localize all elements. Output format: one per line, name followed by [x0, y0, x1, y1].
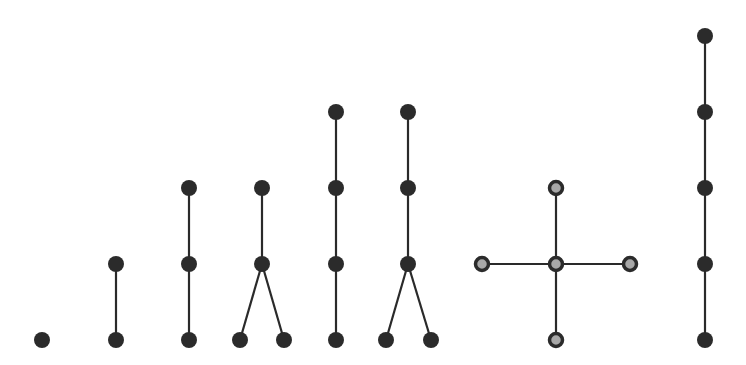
tree-node	[400, 256, 416, 272]
tree-node	[697, 28, 713, 44]
tree-t2	[108, 256, 124, 348]
tree-edge	[240, 264, 262, 340]
tree-node	[254, 256, 270, 272]
tree-node	[108, 256, 124, 272]
tree-node	[181, 332, 197, 348]
tree-node	[328, 332, 344, 348]
tree-node	[181, 256, 197, 272]
tree-node	[423, 332, 439, 348]
tree-t4	[232, 180, 292, 348]
tree-node	[328, 104, 344, 120]
tree-t3	[181, 180, 197, 348]
tree-node	[624, 258, 637, 271]
tree-edge	[408, 264, 431, 340]
tree-t6	[378, 104, 439, 348]
tree-node	[108, 332, 124, 348]
tree-node	[697, 332, 713, 348]
tree-node	[697, 256, 713, 272]
tree-t5	[328, 104, 344, 348]
tree-node	[34, 332, 50, 348]
tree-node	[328, 180, 344, 196]
tree-node	[697, 180, 713, 196]
tree-diagram	[0, 0, 746, 365]
tree-node	[276, 332, 292, 348]
tree-node	[476, 258, 489, 271]
tree-edge	[386, 264, 408, 340]
tree-t7	[476, 182, 637, 347]
tree-node	[181, 180, 197, 196]
tree-t8	[697, 28, 713, 348]
tree-node	[232, 332, 248, 348]
tree-edge	[262, 264, 284, 340]
tree-node	[550, 258, 563, 271]
tree-node	[550, 182, 563, 195]
tree-node	[550, 334, 563, 347]
tree-node	[328, 256, 344, 272]
tree-node	[378, 332, 394, 348]
tree-node	[400, 104, 416, 120]
tree-node	[697, 104, 713, 120]
tree-t1	[34, 332, 50, 348]
tree-node	[400, 180, 416, 196]
tree-node	[254, 180, 270, 196]
